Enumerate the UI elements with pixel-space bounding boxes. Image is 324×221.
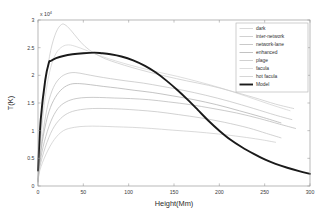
- legend-label-dark[interactable]: dark: [256, 26, 266, 31]
- legend-label-plage[interactable]: plage: [256, 58, 268, 63]
- x-tick-label: 150: [170, 189, 179, 195]
- y-axis-exponent-label: x 104: [40, 11, 52, 17]
- y-tick-label: 2.5: [27, 45, 34, 51]
- x-tick-label: 100: [124, 189, 133, 195]
- legend-label-facula[interactable]: facula: [256, 66, 269, 71]
- x-axis-title: Height(Mm): [155, 199, 194, 208]
- y-tick-label: 1: [32, 128, 35, 134]
- figure-container: 05010015020025030000.511.522.53x 104Heig…: [0, 0, 324, 221]
- x-tick-label: 250: [260, 189, 269, 195]
- y-axis-title: T(K): [6, 96, 15, 110]
- y-tick-label: 3: [32, 17, 35, 23]
- x-tick-label: 300: [306, 189, 315, 195]
- x-tick-label: 50: [80, 189, 86, 195]
- legend[interactable]: darkinter-networknetwork-laneenhancedpla…: [236, 23, 308, 92]
- y-axis-exponent-power: 4: [50, 11, 52, 15]
- y-tick-label: 2: [32, 72, 35, 78]
- legend-label-enhanced[interactable]: enhanced: [256, 50, 278, 55]
- y-tick-label: 0.5: [27, 155, 34, 161]
- legend-label-inter-network[interactable]: inter-network: [256, 34, 285, 39]
- y-tick-label: 1.5: [27, 100, 34, 106]
- y-tick-label: 0: [32, 183, 35, 189]
- series-line-dark: [38, 126, 276, 183]
- series-line-enhanced: [38, 84, 281, 182]
- legend-label-hot-facula[interactable]: hot facula: [256, 74, 277, 79]
- x-tick-label: 0: [37, 189, 40, 195]
- line-chart: 05010015020025030000.511.522.53x 104Heig…: [0, 0, 324, 221]
- legend-label-Model[interactable]: Model: [256, 82, 269, 87]
- series-line-inter-network: [38, 108, 281, 182]
- x-tick-label: 200: [215, 189, 224, 195]
- legend-label-network-lane[interactable]: network-lane: [256, 42, 284, 47]
